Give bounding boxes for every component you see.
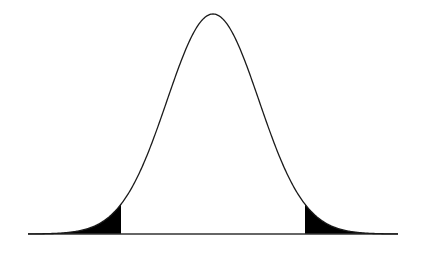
bell-curve-line <box>28 14 398 234</box>
normal-distribution-diagram <box>0 0 424 256</box>
bell-curve-plot <box>0 0 424 256</box>
